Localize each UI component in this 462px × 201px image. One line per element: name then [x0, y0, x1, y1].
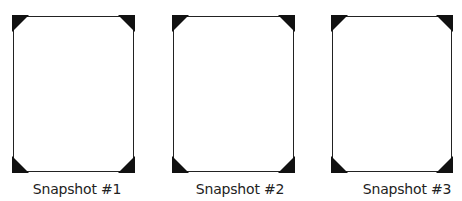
snapshot-caption-2: Snapshot #2 [196, 181, 284, 197]
snapshot-frame-1 [13, 16, 134, 172]
snapshot-caption-3: Snapshot #3 [363, 181, 451, 197]
photo-corner-top-right-icon [436, 15, 453, 32]
snapshot-frame-2 [173, 16, 294, 172]
snapshot-caption-1: Snapshot #1 [33, 181, 121, 197]
photo-corner-top-left-icon [12, 15, 29, 32]
photo-corner-bottom-left-icon [172, 156, 189, 173]
snapshot-frame-3 [332, 16, 452, 172]
photo-corner-top-left-icon [331, 15, 348, 32]
photo-corner-top-right-icon [118, 15, 135, 32]
photo-corner-bottom-right-icon [118, 156, 135, 173]
photo-corner-bottom-left-icon [331, 156, 348, 173]
photo-corner-top-left-icon [172, 15, 189, 32]
photo-corner-bottom-left-icon [12, 156, 29, 173]
photo-corner-bottom-right-icon [278, 156, 295, 173]
photo-corner-bottom-right-icon [436, 156, 453, 173]
photo-corner-top-right-icon [278, 15, 295, 32]
